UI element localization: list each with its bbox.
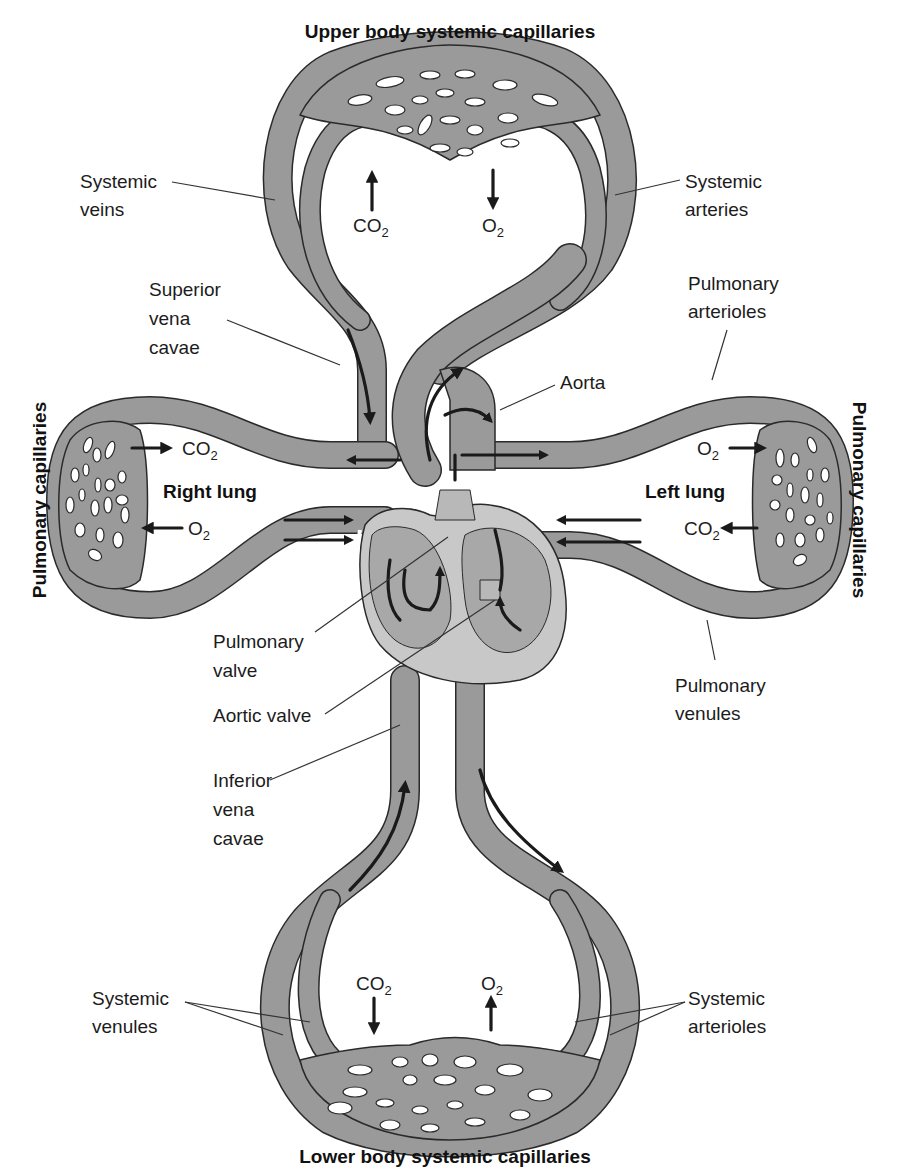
gas-left-lung-co2: CO2	[684, 518, 720, 543]
svg-text:arterioles: arterioles	[688, 1016, 766, 1037]
svg-text:Systemic: Systemic	[688, 988, 765, 1009]
right-lung-loop	[59, 410, 385, 605]
label-systemic-venules: Systemic venules	[92, 988, 169, 1037]
svg-text:venules: venules	[92, 1016, 158, 1037]
svg-text:cavae: cavae	[149, 337, 200, 358]
label-pulmonary-valve: Pulmonary valve	[213, 631, 304, 681]
label-systemic-arteries: Systemic arteries	[685, 171, 762, 220]
svg-text:Systemic: Systemic	[685, 171, 762, 192]
gas-lower-o2: O2	[481, 973, 503, 998]
gas-right-lung-o2: O2	[188, 518, 210, 543]
gas-upper-co2: CO2	[353, 215, 389, 240]
label-systemic-veins: Systemic veins	[80, 171, 157, 220]
gas-right-lung-co2: CO2	[182, 438, 218, 463]
svg-text:arteries: arteries	[685, 199, 748, 220]
svg-text:Pulmonary: Pulmonary	[688, 273, 779, 294]
label-aorta: Aorta	[560, 372, 606, 393]
svg-text:Pulmonary: Pulmonary	[675, 675, 766, 696]
svg-text:Inferior: Inferior	[213, 770, 273, 791]
svg-text:vena: vena	[213, 799, 255, 820]
svg-text:arterioles: arterioles	[688, 301, 766, 322]
svg-text:veins: veins	[80, 199, 124, 220]
label-pulmonary-venules: Pulmonary venules	[675, 675, 766, 724]
side-label-pulmonary-capillaries-right: Pulmonary capillaries	[849, 402, 870, 598]
svg-text:Systemic: Systemic	[80, 171, 157, 192]
gas-lower-co2: CO2	[356, 973, 392, 998]
svg-text:venules: venules	[675, 703, 741, 724]
right-lung-label: Right lung	[163, 481, 257, 502]
svg-text:valve: valve	[213, 660, 257, 681]
svg-text:cavae: cavae	[213, 828, 264, 849]
gas-upper-o2: O2	[482, 215, 504, 240]
svg-text:Systemic: Systemic	[92, 988, 169, 1009]
lower-systemic-loop	[275, 680, 625, 1143]
title-lower-body-capillaries: Lower body systemic capillaries	[299, 1146, 590, 1167]
gas-left-lung-o2: O2	[697, 438, 719, 463]
label-pulmonary-arterioles: Pulmonary arterioles	[688, 273, 779, 322]
label-inferior-vena-cavae: Inferior vena cavae	[213, 770, 273, 849]
circulatory-system-diagram: Upper body systemic capillaries Lower bo…	[0, 0, 899, 1176]
svg-text:Pulmonary: Pulmonary	[213, 631, 304, 652]
label-superior-vena-cavae: Superior vena cavae	[149, 279, 221, 358]
svg-text:Superior: Superior	[149, 279, 221, 300]
title-upper-body-capillaries: Upper body systemic capillaries	[305, 21, 595, 42]
svg-text:vena: vena	[149, 308, 191, 329]
left-lung-label: Left lung	[645, 481, 725, 502]
label-systemic-arterioles: Systemic arterioles	[688, 988, 766, 1037]
side-label-pulmonary-capillaries-left: Pulmonary capillaries	[29, 402, 50, 598]
label-aortic-valve: Aortic valve	[213, 705, 311, 726]
aorta	[409, 260, 570, 470]
